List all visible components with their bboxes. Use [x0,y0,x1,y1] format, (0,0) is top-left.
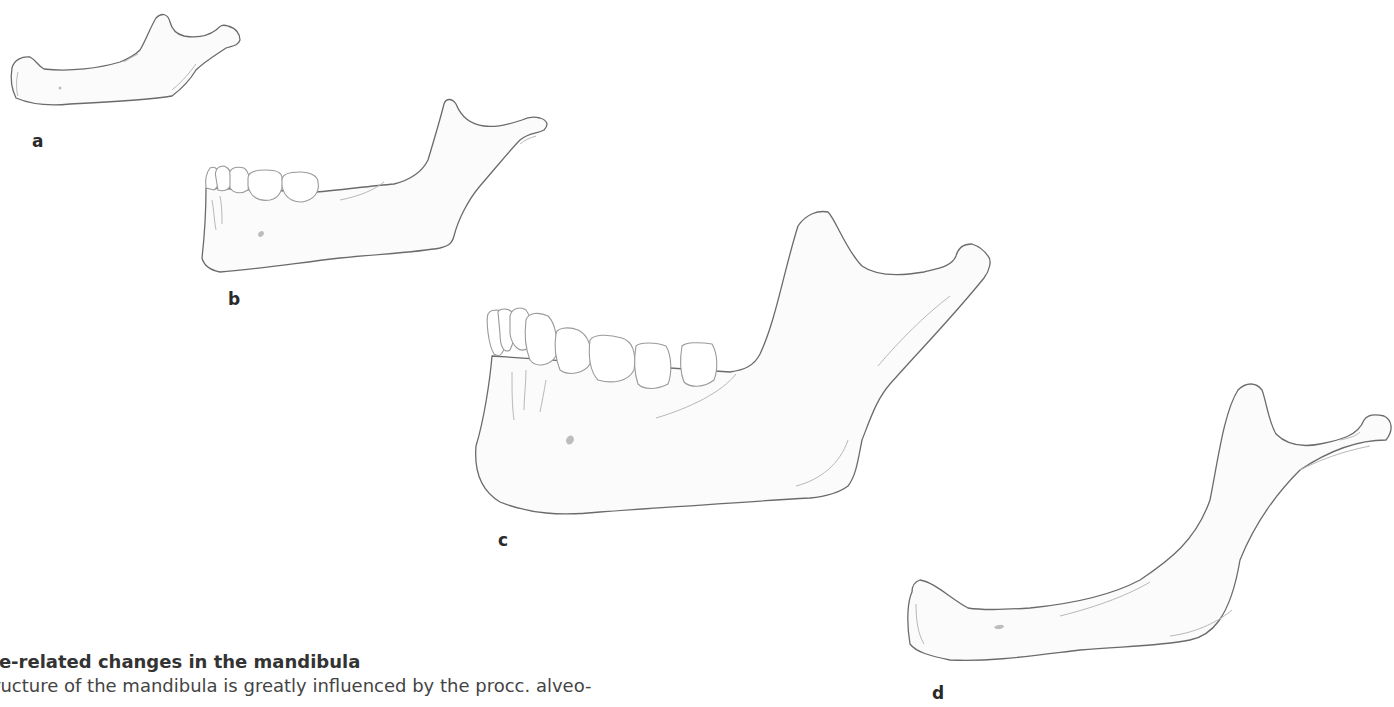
figure-caption: ge-related changes in the mandibula truc… [0,650,746,698]
mandible-c-drawing [476,212,990,514]
panel-label-b: b [228,291,240,308]
mandible-a-drawing [11,15,240,105]
caption-title: ge-related changes in the mandibula [0,650,746,674]
mandible-illustrations [0,0,1394,707]
panel-label-a: a [32,133,43,150]
caption-text: tructure of the mandibula is greatly inf… [0,674,746,698]
panel-label-c: c [498,532,508,549]
panel-label-d: d [932,685,944,702]
mandible-age-figure: a b c d [0,0,1394,707]
mandible-b-drawing [202,100,547,273]
mandible-d-drawing [908,384,1391,660]
